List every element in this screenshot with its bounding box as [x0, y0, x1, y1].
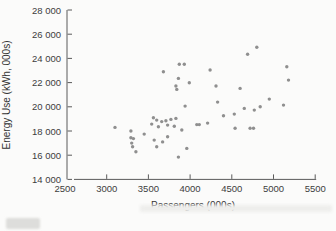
y-tick-label: 26 000 — [32, 29, 61, 40]
data-point — [153, 138, 156, 141]
data-point — [160, 120, 163, 123]
x-tick-label: 5500 — [305, 183, 326, 194]
data-point — [233, 127, 236, 130]
data-point — [131, 145, 134, 148]
data-point — [185, 147, 188, 150]
data-point — [134, 150, 137, 153]
data-point — [175, 88, 178, 91]
data-point — [113, 126, 116, 129]
y-tick-label: 18 000 — [32, 126, 61, 137]
data-point — [208, 68, 211, 71]
x-tick-label: 5000 — [263, 183, 284, 194]
data-point — [174, 84, 177, 87]
data-point — [173, 125, 176, 128]
x-tick-label: 2500 — [54, 183, 75, 194]
data-point — [183, 63, 186, 66]
y-tick-label: 24 000 — [32, 53, 61, 64]
data-point — [132, 137, 135, 140]
data-point — [252, 127, 255, 130]
x-tick-label: 4000 — [180, 183, 201, 194]
y-tick-label: 20 000 — [32, 101, 61, 112]
data-point — [166, 123, 169, 126]
y-tick-label: 16 000 — [32, 150, 61, 161]
y-tick-label: 22 000 — [32, 77, 61, 88]
data-point — [178, 63, 181, 66]
data-point — [150, 122, 153, 125]
x-tick-label: 3500 — [138, 183, 159, 194]
data-point — [169, 118, 172, 121]
cropped-corner-artifact — [6, 218, 40, 229]
scatter-plot-figure: 14 00016 00018 00020 00022 00024 00026 0… — [0, 0, 336, 231]
data-point — [164, 119, 167, 122]
y-tick-label: 28 000 — [32, 5, 61, 16]
axes — [67, 10, 316, 179]
data-point — [155, 145, 158, 148]
data-point — [222, 114, 225, 117]
data-point — [177, 155, 180, 158]
data-point — [238, 87, 241, 90]
data-point — [246, 53, 249, 56]
data-point — [143, 132, 146, 135]
data-point — [157, 125, 160, 128]
data-point — [177, 77, 180, 80]
faded-cropped-text-artifact — [140, 205, 332, 212]
data-point — [183, 104, 186, 107]
x-tick-label: 3000 — [96, 183, 117, 194]
data-point — [188, 81, 191, 84]
scatter-chart: 14 00016 00018 00020 00022 00024 00026 0… — [0, 0, 336, 231]
data-point — [206, 121, 209, 124]
data-point — [259, 105, 262, 108]
data-point — [268, 97, 271, 100]
data-points — [113, 46, 290, 159]
data-point — [161, 140, 164, 143]
data-point — [198, 123, 201, 126]
data-point — [162, 70, 165, 73]
data-point — [253, 108, 256, 111]
data-point — [180, 128, 183, 131]
data-point — [233, 112, 236, 115]
data-point — [174, 117, 177, 120]
y-axis-title: Energy Use (kWh, 000s) — [1, 41, 12, 150]
data-point — [216, 100, 219, 103]
data-point — [214, 84, 217, 87]
data-point — [282, 103, 285, 106]
x-tick-label: 4500 — [221, 183, 242, 194]
data-point — [166, 135, 169, 138]
data-point — [152, 116, 155, 119]
data-point — [129, 129, 132, 132]
data-point — [155, 118, 158, 121]
data-point — [243, 107, 246, 110]
axis-ticks: 14 00016 00018 00020 00022 00024 00026 0… — [32, 5, 326, 195]
data-point — [130, 141, 133, 144]
data-point — [248, 127, 251, 130]
data-point — [255, 46, 258, 49]
data-point — [285, 65, 288, 68]
data-point — [287, 78, 290, 81]
